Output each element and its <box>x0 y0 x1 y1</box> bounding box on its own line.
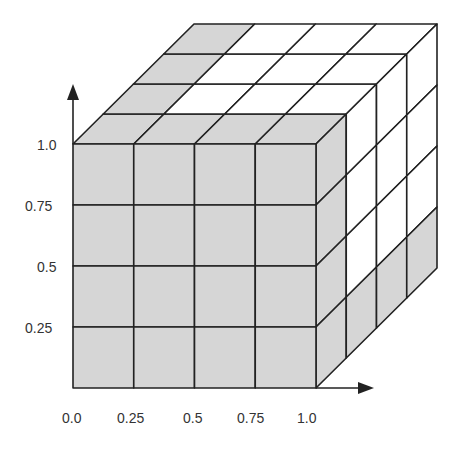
y-tick-0.25: 0.25 <box>25 320 52 336</box>
x-tick-0.75: 0.75 <box>237 410 264 426</box>
x-axis-arrow-icon <box>358 382 374 394</box>
x-tick-1.0: 1.0 <box>297 410 316 426</box>
front-face-cell <box>195 144 256 205</box>
x-tick-0.5: 0.5 <box>183 410 202 426</box>
y-tick-1.0: 1.0 <box>37 137 56 153</box>
front-face-cell <box>73 205 134 266</box>
front-face-cell <box>195 205 256 266</box>
front-face-cell <box>255 144 316 205</box>
front-face-cell <box>134 327 195 388</box>
front-face-cell <box>195 266 256 327</box>
front-face-cell <box>134 266 195 327</box>
front-face-cell <box>134 144 195 205</box>
front-face-cell <box>73 266 134 327</box>
y-tick-0.75: 0.75 <box>25 198 52 214</box>
front-face-cell <box>255 266 316 327</box>
front-face-cell <box>195 327 256 388</box>
x-tick-0.0: 0.0 <box>62 410 81 426</box>
front-face-cell <box>255 327 316 388</box>
cube-diagram <box>0 0 468 449</box>
y-axis-arrow-icon <box>67 84 79 100</box>
x-tick-0.25: 0.25 <box>117 410 144 426</box>
y-tick-0.5: 0.5 <box>37 259 56 275</box>
front-face-cell <box>73 144 134 205</box>
front-face-cell <box>73 327 134 388</box>
front-face-cell <box>134 205 195 266</box>
front-face-cell <box>255 205 316 266</box>
